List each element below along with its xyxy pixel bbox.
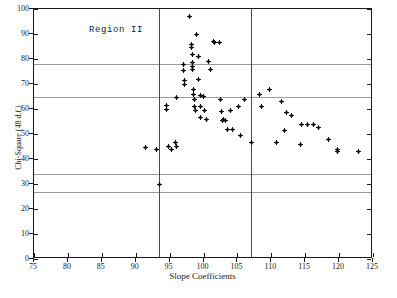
x-tick-label: 115 xyxy=(298,262,310,271)
data-point-core xyxy=(299,143,302,146)
data-point-core xyxy=(193,98,196,101)
data-point xyxy=(204,117,209,122)
x-tick-label: 90 xyxy=(131,262,139,271)
data-point xyxy=(316,125,321,130)
data-point-core xyxy=(229,109,232,112)
region-annotation: Region II xyxy=(89,25,143,35)
data-point xyxy=(143,145,148,150)
data-point xyxy=(236,104,241,109)
data-point xyxy=(289,113,294,118)
data-point xyxy=(267,87,272,92)
data-point xyxy=(228,108,233,113)
x-tick-mark-top xyxy=(271,253,272,257)
x-tick-label: 105 xyxy=(230,262,242,271)
y-tick-right xyxy=(367,134,371,135)
x-tick-mark-top xyxy=(339,253,340,257)
y-tick-right xyxy=(367,59,371,60)
data-point-core xyxy=(218,41,221,44)
data-point xyxy=(187,14,192,19)
y-tick-right xyxy=(367,159,371,160)
x-tick-mark-top xyxy=(136,253,137,257)
data-point xyxy=(257,92,262,97)
data-point-core xyxy=(175,145,178,148)
data-point-core xyxy=(202,95,205,98)
data-point-core xyxy=(197,55,200,58)
y-tick-right xyxy=(367,184,371,185)
data-point-core xyxy=(188,15,191,18)
data-point xyxy=(274,140,279,145)
y-tick-right xyxy=(367,209,371,210)
data-point-core xyxy=(243,98,246,101)
data-point xyxy=(196,54,201,59)
data-point xyxy=(174,95,179,100)
data-point-core xyxy=(250,141,253,144)
data-point-core xyxy=(144,146,147,149)
x-tick-mark-top xyxy=(68,253,69,257)
data-point-core xyxy=(205,118,208,121)
data-point xyxy=(238,133,243,138)
data-point xyxy=(202,108,207,113)
y-tick-inner xyxy=(34,84,38,85)
y-tick-inner xyxy=(34,134,38,135)
x-tick-mark-top xyxy=(305,253,306,257)
data-point-core xyxy=(237,105,240,108)
data-point-core xyxy=(275,141,278,144)
y-tick-inner xyxy=(34,234,38,235)
data-point xyxy=(208,67,213,72)
data-point-core xyxy=(317,126,320,129)
data-point-core xyxy=(183,83,186,86)
data-point xyxy=(326,137,331,142)
data-point xyxy=(259,104,264,109)
data-point-core xyxy=(199,116,202,119)
y-tick-right xyxy=(367,34,371,35)
data-point-core xyxy=(191,68,194,71)
y-tick-inner xyxy=(34,209,38,210)
y-tick-right xyxy=(367,84,371,85)
data-point xyxy=(196,77,201,82)
y-tick-right xyxy=(367,109,371,110)
data-point-core xyxy=(239,134,242,137)
data-point-core xyxy=(300,123,303,126)
data-point xyxy=(299,122,304,127)
data-point-core xyxy=(158,183,161,186)
y-tick-label: 100 xyxy=(17,4,29,13)
data-point-core xyxy=(357,150,360,153)
data-point xyxy=(190,52,195,57)
data-point-core xyxy=(203,109,206,112)
data-point-core xyxy=(199,105,202,108)
data-point xyxy=(305,122,310,127)
y-tick-label: 10 xyxy=(21,229,29,238)
x-tick-mark-top xyxy=(204,253,205,257)
x-axis-label: Slope Coefficients xyxy=(33,271,372,281)
x-tick-mark-top xyxy=(373,253,374,257)
data-point-core xyxy=(258,93,261,96)
x-tick-label: 75 xyxy=(29,262,37,271)
data-point-core xyxy=(182,63,185,66)
data-point xyxy=(335,149,340,154)
data-point-core xyxy=(165,108,168,111)
data-point-core xyxy=(224,119,227,122)
x-tick-mark-top xyxy=(237,253,238,257)
y-tick-inner xyxy=(34,184,38,185)
data-point xyxy=(282,128,287,133)
data-point xyxy=(311,122,316,127)
x-tick-mark-top xyxy=(170,253,171,257)
y-tick-inner xyxy=(34,9,38,10)
data-point xyxy=(154,147,159,152)
data-point xyxy=(217,40,222,45)
data-point-core xyxy=(312,123,315,126)
data-point-core xyxy=(194,109,197,112)
data-point xyxy=(169,147,174,152)
data-point-core xyxy=(182,69,185,72)
x-tick-label: 85 xyxy=(97,262,105,271)
data-point xyxy=(249,140,254,145)
data-point xyxy=(201,94,206,99)
plot-area: Region II xyxy=(33,8,372,258)
data-point-core xyxy=(283,129,286,132)
data-point xyxy=(164,107,169,112)
data-point xyxy=(218,97,223,102)
data-point xyxy=(230,127,235,132)
y-tick-inner xyxy=(34,159,38,160)
data-point-core xyxy=(260,105,263,108)
x-tick-label: 100 xyxy=(197,262,209,271)
